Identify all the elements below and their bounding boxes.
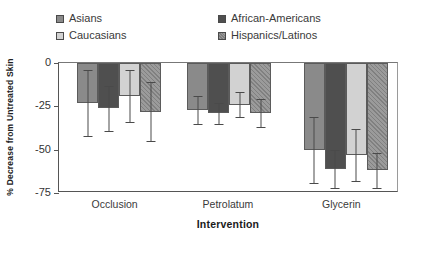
- x-axis-title: Intervention: [58, 218, 398, 230]
- bars-container: [284, 63, 397, 191]
- bar-hispanics-latinos-glycerin: [367, 63, 388, 191]
- bar-african-americans-occlusion: [98, 63, 119, 191]
- legend-item-caucasians: Caucasians: [56, 30, 126, 41]
- bar-caucasians-petrolatum: [229, 63, 250, 191]
- y-tick-label-2: -50: [35, 144, 51, 155]
- legend-swatch-asians: [56, 15, 64, 23]
- y-tick-label-0: 0: [45, 57, 51, 68]
- error-bar-cap-upper: [125, 70, 134, 71]
- bar-group-petrolatum: [172, 63, 285, 191]
- error-bar-cap-lower: [352, 181, 361, 182]
- y-tick-mark: [54, 63, 59, 64]
- error-bar-line: [129, 70, 130, 122]
- legend-item-hispanics-latinos: Hispanics/Latinos: [218, 30, 317, 41]
- error-bar-cap-lower: [235, 117, 244, 118]
- error-bar-cap-upper: [214, 103, 223, 104]
- y-tick-mark: [54, 193, 59, 194]
- error-bar-line: [239, 92, 240, 116]
- error-bar-line: [87, 70, 88, 136]
- error-bar-cap-upper: [235, 92, 244, 93]
- bar-hispanics-latinos-petrolatum: [250, 63, 271, 191]
- error-bar-line: [314, 117, 315, 183]
- bars-container: [172, 63, 285, 191]
- y-tick-label-1: -25: [35, 100, 51, 111]
- legend-label-caucasians: Caucasians: [69, 30, 126, 41]
- y-tick-label-3: -75: [35, 187, 51, 198]
- legend-swatch-hispanics-latinos: [218, 32, 226, 40]
- error-bar-line: [356, 129, 357, 181]
- y-tick-mark: [54, 150, 59, 151]
- error-bar-cap-lower: [83, 136, 92, 137]
- error-bar-line: [335, 150, 336, 188]
- error-bar-cap-upper: [193, 96, 202, 97]
- error-bar-cap-upper: [83, 70, 92, 71]
- bar-african-americans-glycerin: [325, 63, 346, 191]
- error-bar-cap-lower: [331, 188, 340, 189]
- bar-group-occlusion: [59, 63, 172, 191]
- legend-item-african-americans: African-Americans: [218, 13, 321, 24]
- bar-asians-occlusion: [77, 63, 98, 191]
- bar-african-americans-petrolatum: [208, 63, 229, 191]
- error-bar-cap-upper: [310, 117, 319, 118]
- error-bar-cap-upper: [373, 153, 382, 154]
- legend-label-hispanics-latinos: Hispanics/Latinos: [231, 30, 317, 41]
- y-axis-title: % Decrease from Untreated Skin: [4, 62, 16, 192]
- error-bar-line: [218, 103, 219, 124]
- error-bar-cap-lower: [256, 127, 265, 128]
- error-bar-line: [197, 96, 198, 124]
- bar-hispanics-latinos-occlusion: [140, 63, 161, 191]
- error-bar-cap-lower: [104, 131, 113, 132]
- error-bar-cap-upper: [352, 129, 361, 130]
- chart-legend: Asians African-Americans Caucasians Hisp…: [56, 13, 356, 51]
- y-tick-mark: [54, 106, 59, 107]
- bar-groups: [59, 63, 397, 191]
- legend-label-african-americans: African-Americans: [231, 13, 321, 24]
- bar-group-glycerin: [284, 63, 397, 191]
- error-bar-cap-lower: [146, 141, 155, 142]
- legend-swatch-african-americans: [218, 15, 226, 23]
- error-bar-line: [150, 82, 151, 141]
- chart-figure: Asians African-Americans Caucasians Hisp…: [0, 0, 430, 255]
- y-axis-title-text: % Decrease from Untreated Skin: [5, 58, 15, 195]
- plot-area: 0-25-50-75: [58, 62, 398, 192]
- x-axis-tick-labels: Occlusion Petrolatum Glycerin: [58, 198, 398, 212]
- error-bar-cap-upper: [104, 86, 113, 87]
- legend-label-asians: Asians: [69, 13, 102, 24]
- legend-swatch-caucasians: [56, 32, 64, 40]
- error-bar-cap-lower: [125, 122, 134, 123]
- error-bar-cap-upper: [256, 99, 265, 100]
- error-bar-cap-lower: [214, 124, 223, 125]
- legend-item-asians: Asians: [56, 13, 102, 24]
- error-bar-cap-lower: [373, 188, 382, 189]
- bar-asians-petrolatum: [187, 63, 208, 191]
- error-bar-line: [260, 99, 261, 127]
- bar-asians-glycerin: [304, 63, 325, 191]
- error-bar-cap-upper: [331, 150, 340, 151]
- error-bar-line: [108, 86, 109, 131]
- error-bar-cap-lower: [310, 183, 319, 184]
- x-tick-glycerin: Glycerin: [285, 198, 398, 212]
- error-bar-line: [377, 153, 378, 188]
- bar-caucasians-glycerin: [346, 63, 367, 191]
- x-tick-occlusion: Occlusion: [58, 198, 171, 212]
- error-bar-cap-upper: [146, 82, 155, 83]
- bar-caucasians-occlusion: [119, 63, 140, 191]
- x-tick-petrolatum: Petrolatum: [171, 198, 284, 212]
- error-bar-cap-lower: [193, 124, 202, 125]
- bars-container: [59, 63, 172, 191]
